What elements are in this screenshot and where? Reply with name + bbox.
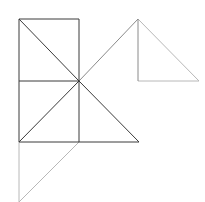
pinwheel-figure: Pinwheel geometric line figure Black lin… — [0, 0, 205, 202]
figure-background — [0, 0, 205, 202]
